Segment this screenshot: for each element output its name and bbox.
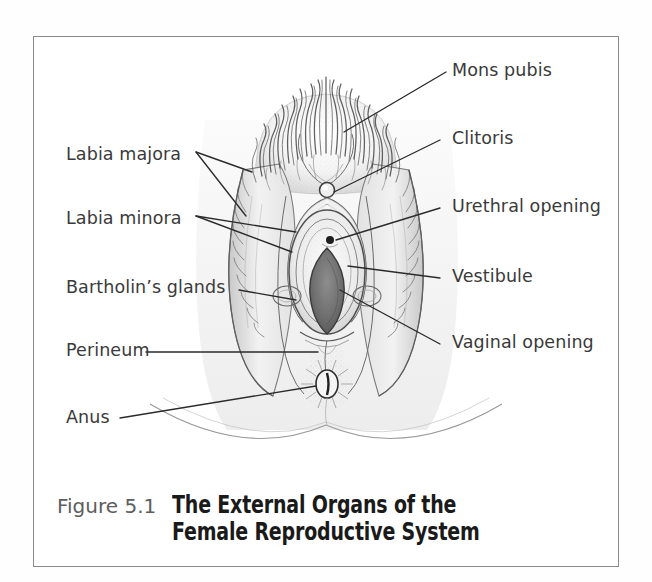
label-perineum: Perineum [66, 340, 150, 360]
figure-page: Labia majora Labia minora Bartholin’s gl… [0, 0, 652, 582]
figure-number: Figure 5.1 [57, 492, 156, 518]
label-labia-minora: Labia minora [66, 208, 182, 228]
label-anus: Anus [66, 407, 110, 427]
figure-title-line-2: Female Reproductive System [172, 519, 480, 546]
label-labia-majora: Labia majora [66, 144, 181, 164]
label-vaginal-opening: Vaginal opening [452, 332, 594, 352]
label-bartholins-glands: Bartholin’s glands [66, 277, 225, 297]
label-vestibule: Vestibule [452, 266, 533, 286]
figure-title: The External Organs of the Female Reprod… [172, 492, 522, 546]
figure-caption: Figure 5.1 The External Organs of the Fe… [57, 492, 602, 546]
label-mons-pubis: Mons pubis [452, 60, 552, 80]
figure-title-line-1: The External Organs of the [172, 492, 480, 519]
label-urethral-opening: Urethral opening [452, 196, 601, 216]
label-clitoris: Clitoris [452, 128, 514, 148]
